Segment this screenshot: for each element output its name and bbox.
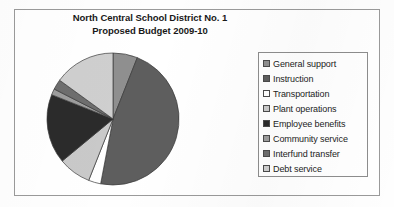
legend-swatch-icon: [263, 105, 270, 112]
legend-item-label: General support: [273, 59, 336, 69]
legend-item-label: Transportation: [273, 89, 329, 99]
chart-title-line-1: North Central School District No. 1: [30, 12, 270, 25]
legend-item-label: Instruction: [273, 74, 313, 84]
pie-svg: [45, 51, 181, 187]
legend-swatch-icon: [263, 60, 270, 67]
legend-item-label: Plant operations: [273, 104, 336, 114]
legend-item-label: Interfund transfer: [273, 149, 340, 159]
chart-image: North Central School District No. 1 Prop…: [0, 0, 394, 207]
legend-swatch-icon: [263, 135, 270, 142]
legend-item[interactable]: Plant operations: [263, 101, 367, 116]
legend-item[interactable]: Instruction: [263, 71, 367, 86]
chart-legend: General supportInstructionTransportation…: [258, 52, 368, 177]
legend-swatch-icon: [263, 120, 270, 127]
legend-item-label: Employee benefits: [273, 119, 345, 129]
legend-item[interactable]: Debt service: [263, 161, 367, 176]
legend-item[interactable]: Transportation: [263, 86, 367, 101]
legend-swatch-icon: [263, 150, 270, 157]
legend-item[interactable]: General support: [263, 56, 367, 71]
legend-item-label: Community service: [273, 134, 348, 144]
chart-title: North Central School District No. 1 Prop…: [30, 12, 270, 37]
legend-item-label: Debt service: [273, 164, 322, 174]
chart-title-line-2: Proposed Budget 2009-10: [30, 25, 270, 38]
legend-swatch-icon: [263, 75, 270, 82]
legend-item[interactable]: Employee benefits: [263, 116, 367, 131]
pie-chart: [45, 51, 181, 187]
legend-swatch-icon: [263, 90, 270, 97]
legend-item[interactable]: Community service: [263, 131, 367, 146]
legend-swatch-icon: [263, 165, 270, 172]
legend-item[interactable]: Interfund transfer: [263, 146, 367, 161]
